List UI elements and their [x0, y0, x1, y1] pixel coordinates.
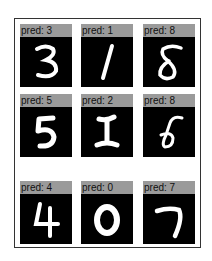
digit-image	[143, 37, 195, 87]
digit-2-icon	[81, 107, 133, 157]
digit-5-icon	[20, 107, 72, 157]
digit-3-icon	[20, 37, 72, 87]
digit-image	[81, 194, 133, 244]
tile-label: pred: 2	[81, 94, 133, 107]
digit-image	[20, 37, 72, 87]
digit-image	[81, 37, 133, 87]
digit-image	[20, 107, 72, 157]
digit-7-icon	[143, 194, 195, 244]
digit-image	[20, 194, 72, 244]
tile-4: pred: 2	[81, 94, 133, 157]
tile-label: pred: 8	[143, 24, 195, 37]
digit-image	[143, 194, 195, 244]
digit-8-icon	[143, 107, 195, 157]
tile-8: pred: 7	[143, 181, 195, 244]
tile-7: pred: 0	[81, 181, 133, 244]
tile-label: pred: 8	[143, 94, 195, 107]
figure-frame: pred: 3 pred: 1 pred: 8 pred: 5 pred: 2 …	[14, 18, 201, 248]
digit-image	[81, 107, 133, 157]
tile-0: pred: 3	[20, 24, 72, 87]
digit-4-icon	[20, 194, 72, 244]
tile-label: pred: 0	[81, 181, 133, 194]
tile-2: pred: 8	[143, 24, 195, 87]
tile-6: pred: 4	[20, 181, 72, 244]
tile-label: pred: 5	[20, 94, 72, 107]
digit-1-icon	[81, 37, 133, 87]
digit-0-icon	[81, 194, 133, 244]
tile-label: pred: 7	[143, 181, 195, 194]
digit-8-icon	[143, 37, 195, 87]
tile-1: pred: 1	[81, 24, 133, 87]
tile-label: pred: 3	[20, 24, 72, 37]
tile-label: pred: 1	[81, 24, 133, 37]
tile-5: pred: 8	[143, 94, 195, 157]
tile-label: pred: 4	[20, 181, 72, 194]
digit-image	[143, 107, 195, 157]
tile-3: pred: 5	[20, 94, 72, 157]
